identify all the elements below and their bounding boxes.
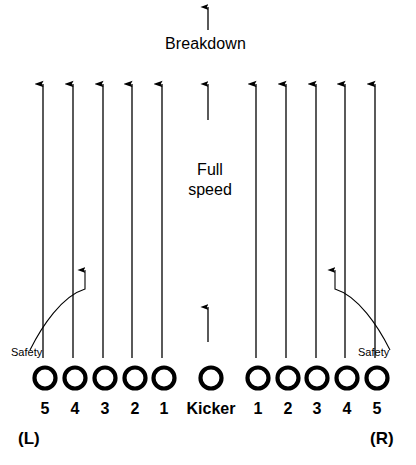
breakdown-label: Breakdown [165,36,246,52]
lane-arrows-right [256,84,375,358]
safety-path-right [335,270,390,350]
player-label-kicker: Kicker [176,401,246,417]
safety-label-left: Safety [11,347,42,358]
player-label-L4: 4 [63,401,87,417]
player-circle-L5 [35,368,56,389]
player-label-R5: 5 [365,401,389,417]
player-circle-L1 [154,368,175,389]
player-circle-R3 [307,368,328,389]
player-label-L2: 2 [123,401,147,417]
player-circle-R2 [278,368,299,389]
player-circle-R4 [337,368,358,389]
full-speed-line2: speed [178,180,242,200]
safety-path-left [30,270,85,350]
side-label-right: (R) [370,430,394,447]
full-speed-label: Full speed [178,160,242,200]
player-circle-R1 [248,368,269,389]
full-speed-line1: Full [178,160,242,180]
kickoff-coverage-diagram: Breakdown Full speed Safety Safety 5 4 3… [0,0,416,465]
player-label-R3: 3 [305,401,329,417]
lane-arrows-left [43,84,162,358]
player-circles [35,368,388,389]
player-circle-L2 [125,368,146,389]
side-label-left: (L) [18,430,40,447]
player-circle-R5 [367,368,388,389]
player-label-L3: 3 [93,401,117,417]
player-label-R1: 1 [246,401,270,417]
player-circle-kicker [201,368,222,389]
player-circle-L4 [65,368,86,389]
safety-routes [30,270,390,350]
player-circle-L3 [95,368,116,389]
player-label-L5: 5 [33,401,57,417]
diagram-canvas [0,0,416,465]
player-label-R4: 4 [335,401,359,417]
player-label-R2: 2 [276,401,300,417]
player-label-L1: 1 [152,401,176,417]
safety-label-right: Safety [358,347,389,358]
